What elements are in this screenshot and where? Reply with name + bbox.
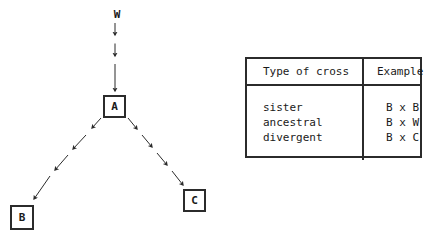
- cross-types-grid: Type of cross Example sister B x B ances…: [247, 59, 420, 160]
- diagram-node-b-label: B: [19, 212, 26, 223]
- cell-cross-example: B x W: [363, 115, 420, 130]
- column-header-type-of-cross: Type of cross: [247, 59, 363, 85]
- table-spacer-cell: [363, 85, 420, 100]
- figure-canvas: W A B C Type of cross Example: [0, 0, 433, 239]
- table-header: Type of cross Example: [247, 59, 420, 85]
- table-row: sister B x B: [247, 100, 420, 115]
- table-spacer-cell: [247, 85, 363, 100]
- cross-types-table: Type of cross Example sister B x B ances…: [245, 57, 422, 158]
- lineage-diagram: W A B C: [0, 0, 240, 239]
- column-header-example: Example: [363, 59, 420, 85]
- cell-cross-type: sister: [247, 100, 363, 115]
- cell-cross-example: B x C: [363, 130, 420, 145]
- diagram-node-c: C: [183, 189, 206, 212]
- diagram-node-w: W: [110, 9, 124, 20]
- cell-cross-type: ancestral: [247, 115, 363, 130]
- table-spacer-row: [247, 145, 420, 160]
- table-spacer-row: [247, 85, 420, 100]
- diagram-node-a: A: [103, 95, 126, 118]
- cell-cross-type: divergent: [247, 130, 363, 145]
- table-spacer-cell: [247, 145, 363, 160]
- diagram-node-b: B: [10, 205, 34, 230]
- table-spacer-cell: [363, 145, 420, 160]
- diagram-node-a-label: A: [111, 101, 118, 112]
- table-row: divergent B x C: [247, 130, 420, 145]
- cell-cross-example: B x B: [363, 100, 420, 115]
- edge-a-to-b: [34, 118, 101, 199]
- table-header-row: Type of cross Example: [247, 59, 420, 85]
- table-row: ancestral B x W: [247, 115, 420, 130]
- diagram-node-c-label: C: [191, 195, 198, 206]
- table-body: sister B x B ancestral B x W divergent B…: [247, 85, 420, 160]
- edge-a-to-c: [128, 118, 183, 185]
